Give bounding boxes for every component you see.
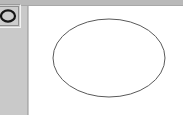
ellipse-tool-button[interactable]: Ellipse	[0, 4, 21, 28]
application-window: tool-palette Ellipse Drawing canvas	[0, 0, 183, 115]
drawing-canvas[interactable]: Drawing canvas	[29, 6, 183, 115]
ellipse-icon	[0, 8, 17, 24]
canvas-surface[interactable]	[29, 6, 183, 115]
ellipse-shape[interactable]	[53, 19, 165, 97]
